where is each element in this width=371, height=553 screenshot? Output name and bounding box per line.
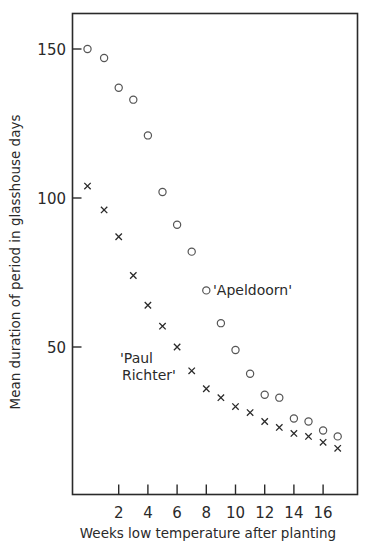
- data-point-cross: [276, 424, 282, 430]
- data-point-circle: [305, 418, 312, 425]
- data-point-cross: [130, 272, 136, 278]
- x-tick-label: 2: [114, 504, 124, 522]
- x-tick-label: 8: [202, 504, 212, 522]
- data-point-circle: [101, 54, 108, 61]
- y-tick-label: 100: [37, 190, 66, 208]
- data-point-cross: [218, 394, 224, 400]
- x-tick-label: 12: [255, 504, 274, 522]
- data-point-cross: [291, 430, 297, 436]
- data-point-circle: [130, 96, 137, 103]
- data-point-cross: [189, 368, 195, 374]
- data-point-circle: [217, 320, 224, 327]
- data-point-circle: [159, 188, 166, 195]
- data-point-circle: [174, 221, 181, 228]
- apeldoorn-label: 'Apeldoorn': [213, 282, 292, 298]
- data-point-circle: [115, 84, 122, 91]
- data-point-cross: [335, 445, 341, 451]
- data-point-cross: [305, 433, 311, 439]
- data-point-cross: [203, 386, 209, 392]
- data-point-cross: [232, 403, 238, 409]
- x-axis-tick-labels: 246810121416: [114, 504, 333, 522]
- x-axis-label: Weeks low temperature after planting: [80, 525, 336, 541]
- x-tick-label: 10: [226, 504, 245, 522]
- x-tick-label: 4: [143, 504, 153, 522]
- data-point-cross: [247, 409, 253, 415]
- data-point-circle: [276, 394, 283, 401]
- y-tick-label: 50: [47, 339, 66, 357]
- data-point-cross: [145, 302, 151, 308]
- x-tick-label: 16: [314, 504, 333, 522]
- data-point-circle: [144, 132, 151, 139]
- data-point-circle: [261, 391, 268, 398]
- data-point-cross: [101, 207, 107, 213]
- data-point-circle: [334, 433, 341, 440]
- paul-richter-label-line1: 'Paul: [120, 350, 153, 366]
- data-point-circle: [320, 427, 327, 434]
- y-axis-label: Mean duration of period in glasshouse da…: [7, 115, 23, 410]
- data-point-cross: [262, 418, 268, 424]
- x-tick-label: 14: [284, 504, 303, 522]
- data-point-circle: [290, 415, 297, 422]
- series-paul-richter-markers: [84, 183, 341, 452]
- data-point-cross: [159, 323, 165, 329]
- data-point-circle: [203, 287, 210, 294]
- data-point-circle: [84, 45, 91, 52]
- y-axis-ticks: [73, 49, 82, 347]
- data-point-circle: [188, 248, 195, 255]
- data-point-cross: [84, 183, 90, 189]
- x-axis-ticks: [119, 485, 323, 495]
- paul-richter-label-line2: Richter': [122, 367, 176, 383]
- x-tick-label: 6: [172, 504, 182, 522]
- data-point-circle: [232, 346, 239, 353]
- data-point-cross: [116, 234, 122, 240]
- data-point-circle: [247, 370, 254, 377]
- data-point-cross: [320, 439, 326, 445]
- data-point-cross: [174, 344, 180, 350]
- y-tick-label: 150: [37, 41, 66, 59]
- y-axis-tick-labels: 50100150: [37, 41, 66, 357]
- chart: 246810121416 50100150 'Apeldoorn' 'Paul …: [0, 0, 371, 553]
